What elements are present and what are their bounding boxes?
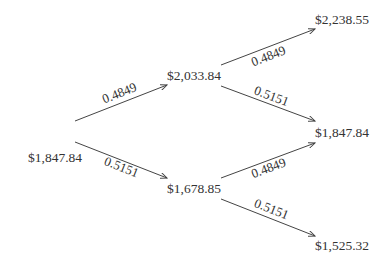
tree-nodes: $1,847.84$2,033.84$1,678.85$2,238.55$1,8… [28,12,369,253]
edge-probability-label: 0.4849 [249,155,288,182]
edge-probability-label: 0.5151 [102,153,141,180]
binomial-tree-diagram: 0.48490.51510.48490.51510.48490.5151 $1,… [0,0,388,263]
node-value-root: $1,847.84 [28,150,82,165]
edge-probability-label: 0.4849 [100,79,139,106]
node-value-updown: $1,847.84 [315,125,369,140]
node-value-down: $1,678.85 [167,181,221,196]
edge-probability-label: 0.5151 [252,195,291,222]
node-value-downdown: $1,525.32 [315,238,369,253]
node-value-upup: $2,238.55 [315,12,369,27]
node-value-up: $2,033.84 [167,68,221,83]
tree-edges: 0.48490.51510.48490.51510.48490.5151 [75,29,315,236]
